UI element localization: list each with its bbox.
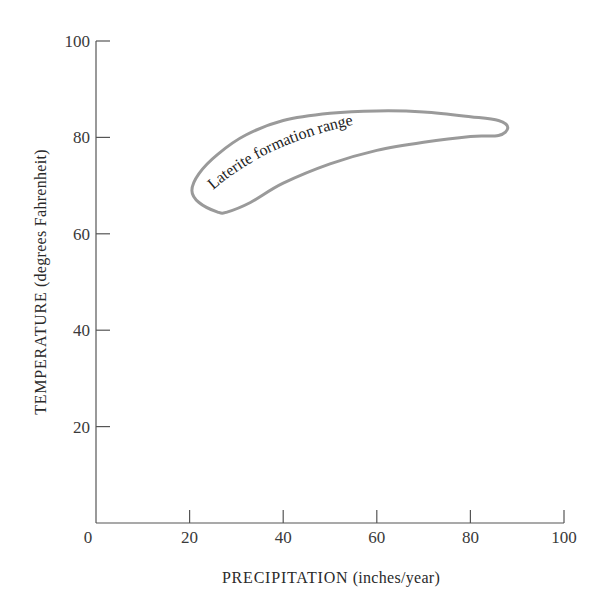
y-tick-label: 80 [73,128,90,147]
y-tick-label: 60 [73,225,90,244]
x-tick-label: 60 [368,528,385,547]
x-tick-label: 100 [551,528,577,547]
chart-canvas: 20406080100 20406080100 0 Laterite forma… [0,0,602,601]
y-axis-title-unit: (degrees Fahrenheit) [32,149,50,287]
y-ticks: 20406080100 [65,32,111,437]
x-axis-title: PRECIPITATION (inches/year) [222,569,440,587]
x-axis-title-main: PRECIPITATION [222,569,348,586]
x-ticks: 20406080100 [181,510,577,547]
x-tick-label: 80 [462,528,479,547]
x-tick-label: 20 [181,528,198,547]
x-tick-label: 40 [275,528,292,547]
y-tick-label: 20 [73,418,90,437]
region-label: Laterite formation range [204,111,354,192]
y-axis-title-main: TEMPERATURE [32,291,49,414]
x-axis-title-unit: (inches/year) [353,569,440,587]
y-axis-title: TEMPERATURE (degrees Fahrenheit) [32,149,50,415]
y-tick-label: 100 [65,32,91,51]
origin-label: 0 [84,528,93,547]
y-tick-label: 40 [73,321,90,340]
